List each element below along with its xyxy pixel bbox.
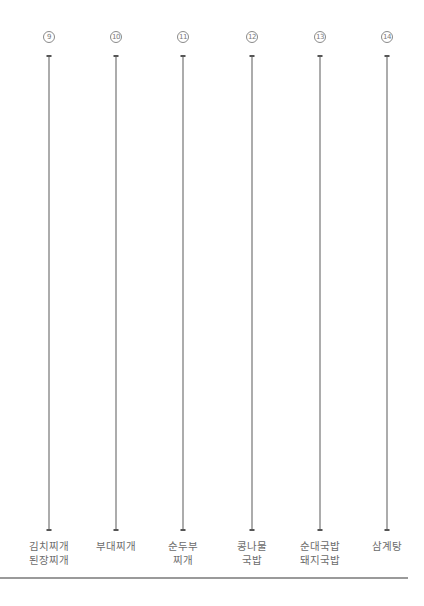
- label-line-1: 순두부: [148, 539, 218, 553]
- label-line-1: 김치찌개: [14, 539, 84, 553]
- vertical-line: [49, 56, 50, 530]
- label-line-2: 된장찌개: [14, 553, 84, 567]
- circled-number-13: 13: [314, 31, 326, 43]
- column-label: 콩나물 국밥: [217, 539, 287, 567]
- circled-number-12: 12: [246, 31, 258, 43]
- bottom-cap: [318, 529, 323, 531]
- circled-number-10: 10: [110, 31, 122, 43]
- column-12: 12 콩나물 국밥: [222, 0, 282, 606]
- column-label: 순두부 찌개: [148, 539, 218, 567]
- column-11: 11 순두부 찌개: [153, 0, 213, 606]
- vertical-line: [252, 56, 253, 530]
- vertical-line: [183, 56, 184, 530]
- bottom-divider: [0, 577, 408, 579]
- label-line-1: 삼계탕: [352, 539, 422, 553]
- label-line-2: 돼지국밥: [285, 553, 355, 567]
- bottom-cap: [181, 529, 186, 531]
- column-label: 순대국밥 돼지국밥: [285, 539, 355, 567]
- label-line-2: 찌개: [148, 553, 218, 567]
- label-line-1: 순대국밥: [285, 539, 355, 553]
- bottom-cap: [114, 529, 119, 531]
- vertical-line: [387, 56, 388, 530]
- bottom-cap: [250, 529, 255, 531]
- label-line-2: 국밥: [217, 553, 287, 567]
- column-14: 14 삼계탕: [357, 0, 417, 606]
- column-10: 10 부대찌개: [86, 0, 146, 606]
- bottom-cap: [385, 529, 390, 531]
- vertical-line: [320, 56, 321, 530]
- circled-number-9: 9: [43, 31, 55, 43]
- column-13: 13 순대국밥 돼지국밥: [290, 0, 350, 606]
- column-label: 부대찌개: [81, 539, 151, 553]
- label-line-1: 콩나물: [217, 539, 287, 553]
- label-line-1: 부대찌개: [81, 539, 151, 553]
- column-label: 김치찌개 된장찌개: [14, 539, 84, 567]
- column-9: 9 김치찌개 된장찌개: [19, 0, 79, 606]
- circled-number-14: 14: [381, 31, 393, 43]
- circled-number-11: 11: [177, 31, 189, 43]
- bottom-cap: [47, 529, 52, 531]
- column-label: 삼계탕: [352, 539, 422, 553]
- vertical-line: [116, 56, 117, 530]
